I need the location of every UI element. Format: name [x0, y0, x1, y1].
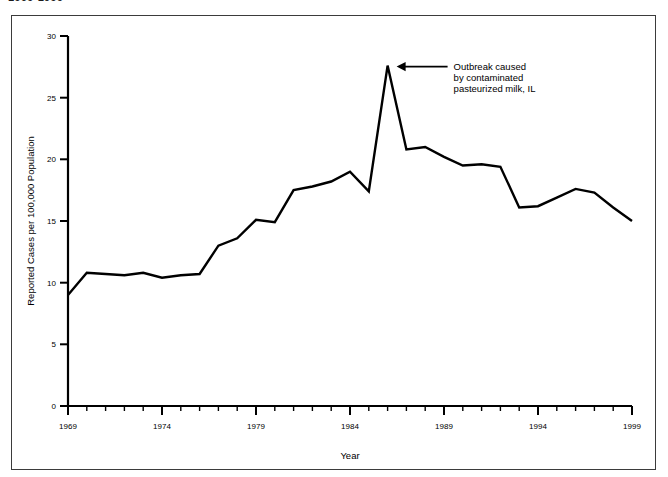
x-tick-label-1984: 1984	[341, 422, 359, 431]
figure-frame: 30 25 20 15 10 5 0 Reported Cases per 10…	[11, 15, 656, 470]
y-tick-label-15: 15	[47, 217, 56, 226]
outbreak-annotation: Outbreak caused by contaminated pasteuri…	[397, 61, 536, 94]
data-series-line	[68, 66, 632, 295]
y-axis-ticks	[60, 36, 68, 406]
left-pointing-arrow-icon	[397, 62, 406, 71]
chart-page: 1969-1999 30 25 20 15	[0, 0, 668, 477]
annotation-line-2: by contaminated	[454, 72, 524, 83]
top-caption: 1969-1999	[8, 0, 63, 3]
x-tick-label-1989: 1989	[435, 422, 453, 431]
annotation-line-1: Outbreak caused	[454, 61, 526, 72]
annotation-line-3: pasteurized milk, IL	[454, 83, 536, 94]
y-tick-label-25: 25	[47, 94, 56, 103]
y-tick-label-10: 10	[47, 279, 56, 288]
y-axis-tick-labels: 30 25 20 15 10 5 0	[47, 32, 56, 411]
y-axis-title: Reported Cases per 100,000 Population	[25, 136, 36, 306]
x-tick-label-1999: 1999	[623, 422, 641, 431]
y-tick-label-30: 30	[47, 32, 56, 41]
y-tick-label-5: 5	[52, 340, 57, 349]
x-tick-label-1994: 1994	[529, 422, 547, 431]
x-tick-label-1969: 1969	[59, 422, 77, 431]
x-tick-label-1979: 1979	[247, 422, 265, 431]
x-axis-tick-labels: 1969197419791984198919941999	[59, 422, 641, 431]
x-axis-title: Year	[340, 450, 359, 461]
x-tick-label-1974: 1974	[153, 422, 171, 431]
x-axis-ticks	[68, 406, 632, 415]
y-tick-label-0: 0	[52, 402, 57, 411]
line-chart: 30 25 20 15 10 5 0 Reported Cases per 10…	[12, 16, 655, 469]
y-tick-label-20: 20	[47, 155, 56, 164]
